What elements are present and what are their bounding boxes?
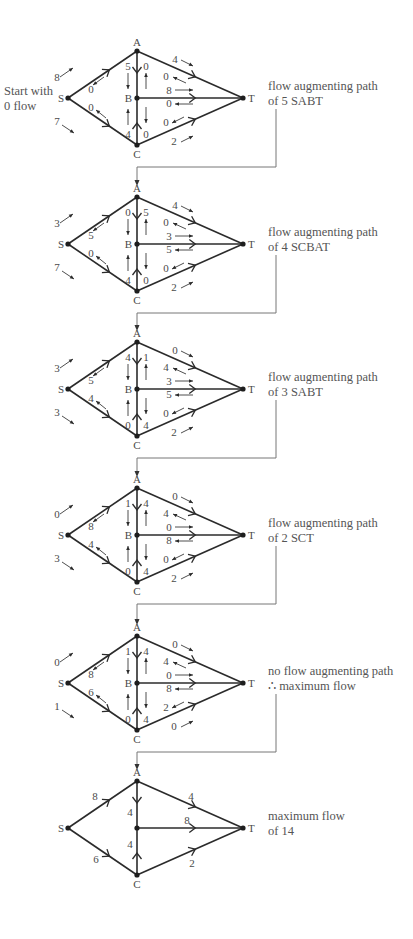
final-flow-SA: 8: [92, 790, 98, 802]
label-BT-backward: 5: [166, 243, 172, 255]
arrow-CB-up-head: [126, 694, 130, 698]
stage-diagram-3: SABCT35434104043502: [54, 327, 255, 451]
arrow-CB-up-head: [126, 255, 130, 259]
node-label-C: C: [133, 294, 140, 306]
final-caption-line-1: maximum flow: [268, 809, 345, 823]
node-label-T: T: [248, 677, 255, 689]
node-label-A: A: [133, 327, 141, 339]
stage-caption-4-line-1: flow augmenting path: [268, 516, 378, 530]
node-C: [134, 142, 139, 147]
label-BT-forward: 3: [166, 230, 172, 242]
label-AT-backward: 4: [163, 655, 169, 667]
node-T: [240, 241, 245, 246]
arrow-SC-forward-head: [70, 566, 74, 570]
label-CT-forward: 2: [171, 135, 177, 147]
arrow-CB-up-head: [126, 400, 130, 404]
arrow-AB-down-head: [126, 85, 130, 89]
stage-caption-1: flow augmenting pathof 5 SABT: [268, 79, 378, 109]
arrow-AB-up-head: [144, 364, 148, 368]
arrow-BT-backward-head: [175, 102, 179, 106]
node-label-T: T: [248, 383, 255, 395]
edge-SA: [68, 197, 137, 244]
stage-caption-4: flow augmenting pathof 2 SCT: [268, 516, 378, 546]
node-A: [134, 633, 139, 638]
node-T: [240, 532, 245, 537]
node-A: [134, 339, 139, 344]
label-CB-left: 4: [125, 128, 131, 140]
edge-AT: [137, 781, 243, 828]
intro-line-1: Start with: [4, 84, 53, 98]
label-SA-forward: 0: [54, 656, 60, 668]
label-SA-forward: 3: [54, 362, 60, 374]
stage-caption-5-line-2: ∴ maximum flow: [268, 679, 356, 693]
label-AT-backward: 4: [163, 507, 169, 519]
label-CB-left: 4: [125, 274, 131, 286]
label-CT-forward: 2: [171, 281, 177, 293]
final-max-flow-diagram: SACT8644482: [58, 766, 255, 890]
stage-caption-3-line-1: flow augmenting path: [268, 370, 378, 384]
label-BT-forward: 0: [166, 521, 172, 533]
arrow-CB-up-head: [126, 109, 130, 113]
label-CB-left: 0: [125, 419, 131, 431]
arrow-CB-down-head: [144, 704, 148, 708]
arrow-AB-down-head: [126, 376, 130, 380]
intro-label: Start with0 flow: [4, 84, 53, 114]
label-SC-capacity: 1: [54, 700, 60, 712]
node-label-T: T: [248, 822, 255, 834]
label-SA-forward: 0: [54, 508, 60, 520]
label-CB-right: 0: [143, 128, 149, 140]
node-label-C: C: [133, 878, 140, 890]
stage-diagram-5: SABCT08611404040820: [54, 621, 255, 745]
arrow-BT-forward-head: [189, 234, 193, 238]
arrow-SA-forward-head: [69, 68, 73, 72]
label-SA-forward: 8: [54, 71, 60, 83]
stage-caption-1-line-1: flow augmenting path: [268, 79, 378, 93]
label-AB-left: 5: [125, 60, 131, 72]
node-S: [65, 241, 70, 246]
stage-diagram-2: SABCT35070540403502: [54, 182, 255, 306]
label-BT-backward: 5: [166, 388, 172, 400]
label-CT-backward: 0: [163, 116, 169, 128]
node-label-S: S: [58, 238, 64, 250]
final-flow-CB: 4: [127, 838, 133, 850]
label-CB-right: 4: [143, 419, 149, 431]
node-label-B: B: [125, 383, 132, 395]
node-S: [65, 532, 70, 537]
label-SC-forward-residual: 4: [88, 538, 94, 550]
node-label-C: C: [133, 439, 140, 451]
arrow-CB-up-head: [126, 546, 130, 550]
arrow-AB-up-head: [144, 510, 148, 514]
label-AB-right: 0: [143, 60, 149, 72]
arrow-BT-forward-head: [189, 673, 193, 677]
node-S: [65, 95, 70, 100]
node-label-S: S: [58, 92, 64, 104]
label-AT-forward: 0: [172, 344, 178, 356]
node-B: [134, 241, 139, 246]
node-label-B: B: [125, 92, 132, 104]
label-CT-forward: 0: [171, 720, 177, 732]
connector-line: [137, 400, 276, 474]
arrow-SC-forward-head: [70, 275, 74, 279]
label-AB-right: 4: [143, 497, 149, 509]
edge-SA: [68, 51, 137, 98]
arrow-BT-forward-head: [189, 88, 193, 92]
node-T: [240, 386, 245, 391]
label-CT-backward: 2: [163, 701, 169, 713]
node-label-S: S: [58, 677, 64, 689]
arrow-AB-down-head: [126, 670, 130, 674]
label-CT-backward: 0: [163, 407, 169, 419]
node-label-C: C: [133, 148, 140, 160]
connector-line: [137, 546, 276, 622]
arrow-AB-down-head: [126, 231, 130, 235]
label-CB-right: 0: [143, 274, 149, 286]
label-SC-capacity: 3: [54, 552, 60, 564]
label-SC-forward-residual: 0: [88, 101, 94, 113]
arrow-SA-forward-head: [69, 359, 73, 363]
stage-caption-2: flow augmenting pathof 4 SCBAT: [268, 225, 378, 255]
arrow-BT-backward-head: [175, 248, 179, 252]
label-SC-capacity: 7: [54, 261, 60, 273]
stage-caption-2-line-2: of 4 SCBAT: [268, 240, 330, 254]
label-CT-forward: 2: [171, 426, 177, 438]
node-label-S: S: [58, 529, 64, 541]
label-SC-forward-residual: 4: [88, 392, 94, 404]
